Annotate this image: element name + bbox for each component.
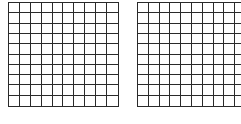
grid-cell [53, 24, 64, 34]
grid-cell [192, 96, 203, 106]
grid-cell [170, 34, 181, 44]
grid-cell [53, 75, 64, 85]
grid-cell [192, 24, 203, 34]
grid-cell [214, 96, 225, 106]
grid-cell [138, 13, 149, 23]
grid-cell [9, 85, 20, 95]
grid-cell [63, 13, 74, 23]
grid-cell [96, 55, 107, 65]
grid-cell [9, 96, 20, 106]
grid-cell [53, 96, 64, 106]
grid-cell [63, 65, 74, 75]
grid-cell [31, 55, 42, 65]
grid-cell [214, 65, 225, 75]
grid-cell [235, 13, 241, 23]
grid-cell [96, 44, 107, 54]
grid-cell [96, 24, 107, 34]
grid-cell [214, 3, 225, 13]
grid-cell [63, 75, 74, 85]
grid-cell [160, 85, 171, 95]
grid-cell [170, 3, 181, 13]
grid-cell [160, 24, 171, 34]
grid-cell [9, 3, 20, 13]
grid-cell [107, 24, 118, 34]
grid-cell [214, 34, 225, 44]
grid-cell [160, 55, 171, 65]
grid-cell [192, 65, 203, 75]
grid-cell [42, 65, 53, 75]
grid-cell [181, 3, 192, 13]
grid-cell [181, 13, 192, 23]
grid-cell [214, 85, 225, 95]
grid-cell [63, 3, 74, 13]
grid-cell [31, 85, 42, 95]
grid-cell [235, 55, 241, 65]
grid-cell [170, 96, 181, 106]
grid-cell [20, 13, 31, 23]
grid-cell [31, 44, 42, 54]
grid-cell [149, 96, 160, 106]
grid-cell [85, 34, 96, 44]
grid-cell [20, 24, 31, 34]
grid-cell [74, 13, 85, 23]
grid-cell [107, 75, 118, 85]
grid-cell [85, 13, 96, 23]
grid-cell [181, 44, 192, 54]
grid-cell [138, 65, 149, 75]
grid-cell [42, 44, 53, 54]
grid-cell [203, 13, 214, 23]
grid-cell [63, 44, 74, 54]
grid-cell [170, 24, 181, 34]
grid-cell [160, 34, 171, 44]
grid-cell [224, 3, 235, 13]
grid-cell [85, 75, 96, 85]
grid-cell [138, 34, 149, 44]
grid-cell [192, 3, 203, 13]
grid-cell [74, 24, 85, 34]
grid-cell [138, 3, 149, 13]
hundred-grid-right [137, 2, 241, 107]
grid-cell [96, 96, 107, 106]
grid-cell [235, 24, 241, 34]
grid-cell [235, 3, 241, 13]
grid-cell [31, 13, 42, 23]
grid-cell [181, 34, 192, 44]
grid-cell [107, 3, 118, 13]
grid-cell [181, 24, 192, 34]
grid-cell [149, 55, 160, 65]
grid-cell [138, 55, 149, 65]
grid-cell [9, 24, 20, 34]
grid-cell [53, 13, 64, 23]
grid-cell [53, 34, 64, 44]
grid-cell [96, 3, 107, 13]
grid-cell [74, 55, 85, 65]
grid-cell [85, 96, 96, 106]
grid-cell [170, 85, 181, 95]
grid-cell [42, 13, 53, 23]
grid-cell [203, 85, 214, 95]
grid-cell [181, 96, 192, 106]
grid-cell [31, 3, 42, 13]
grid-cell [235, 65, 241, 75]
grid-cell [20, 65, 31, 75]
grid-cell [214, 24, 225, 34]
grid-cell [42, 55, 53, 65]
grid-cell [9, 75, 20, 85]
grid-cell [138, 75, 149, 85]
grid-cell [203, 3, 214, 13]
grid-cell [149, 65, 160, 75]
grid-cell [74, 65, 85, 75]
grid-cell [170, 13, 181, 23]
grid-cell [138, 96, 149, 106]
grid-cell [85, 65, 96, 75]
grid-cell [203, 24, 214, 34]
grid-cell [74, 34, 85, 44]
grid-cell [192, 55, 203, 65]
grid-cell [203, 44, 214, 54]
grid-cell [203, 65, 214, 75]
grid-cell [53, 65, 64, 75]
grid-cell [20, 34, 31, 44]
grid-cell [74, 44, 85, 54]
grid-cell [149, 85, 160, 95]
grid-cell [63, 96, 74, 106]
